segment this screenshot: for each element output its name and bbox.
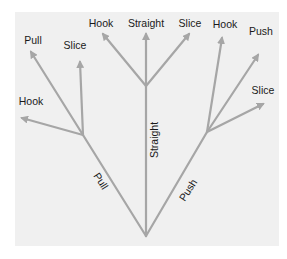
arrow-straight-slice	[146, 34, 189, 86]
outcome-label-push-hook: Hook	[213, 19, 238, 30]
arrow-pull-slice	[80, 62, 83, 135]
outcome-label-straight-straight: Straight	[128, 18, 164, 29]
outcome-label-push-push: Push	[249, 26, 273, 37]
shot-shape-tree	[0, 0, 287, 259]
outcome-label-pull-pull: Pull	[24, 35, 42, 46]
outcome-label-pull-slice: Slice	[64, 40, 87, 51]
outcome-label-push-slice: Slice	[252, 85, 275, 96]
branch-label-straight: Straight	[149, 122, 160, 158]
outcome-label-straight-slice: Slice	[179, 18, 202, 29]
outcome-label-pull-hook: Hook	[19, 96, 44, 107]
arrow-straight-hook	[103, 34, 146, 86]
trunk-pull	[83, 135, 146, 236]
arrow-push-hook	[207, 38, 222, 132]
outcome-label-straight-hook: Hook	[89, 18, 114, 29]
